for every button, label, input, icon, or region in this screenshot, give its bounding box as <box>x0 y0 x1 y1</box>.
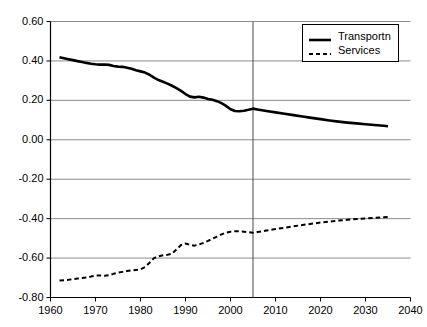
x-tick-label: 1960 <box>31 305 71 316</box>
y-tick-label: -0.80 <box>18 292 43 303</box>
x-tick-label: 2020 <box>301 305 341 316</box>
x-tick-label: 2040 <box>391 305 427 316</box>
y-tick-label: -0.60 <box>18 252 43 263</box>
y-tick-label: -0.40 <box>18 213 43 224</box>
legend-swatch-solid-icon <box>308 31 332 41</box>
y-tick-label: 0.00 <box>22 134 43 145</box>
line-chart: 0.600.400.200.00-0.20-0.40-0.60-0.80 196… <box>0 0 427 327</box>
x-tick-label: 1970 <box>76 305 116 316</box>
legend-item-transportn: Transportn <box>308 29 391 43</box>
y-tick-label: -0.20 <box>18 173 43 184</box>
x-tick-label: 1990 <box>166 305 206 316</box>
series-line-transportn <box>60 57 389 126</box>
x-tick-label: 2000 <box>211 305 251 316</box>
x-tick-label: 2010 <box>256 305 296 316</box>
legend-label-services: Services <box>338 44 380 56</box>
series-line-services <box>60 217 389 280</box>
x-tick-label: 2030 <box>346 305 386 316</box>
x-tick-label: 1980 <box>121 305 161 316</box>
axes <box>51 22 411 298</box>
legend: Transportn Services <box>302 24 399 62</box>
y-tick-label: 0.60 <box>22 16 43 27</box>
legend-item-services: Services <box>308 43 391 57</box>
y-tick-label: 0.40 <box>22 55 43 66</box>
legend-label-transportn: Transportn <box>338 30 391 42</box>
data-series <box>60 57 389 280</box>
y-tick-label: 0.20 <box>22 94 43 105</box>
legend-swatch-dashed-icon <box>308 45 332 55</box>
gridlines <box>51 22 411 298</box>
